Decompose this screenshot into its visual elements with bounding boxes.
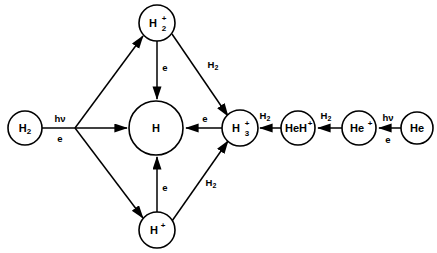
edge-label-h2-heplus-hehplus: H2 [321, 110, 332, 122]
edge-label-h2-h2plus-h3plus: H2 [208, 59, 219, 71]
node-h3-plus-superscript: + [245, 119, 250, 128]
node-heh-plus-label: HeH [285, 122, 307, 134]
node-heh-plus-superscript: + [308, 119, 313, 128]
edge-h2plus-to-h3plus [172, 34, 228, 116]
node-he-plus[interactable]: He + [342, 111, 376, 145]
node-h2-plus-label: H [149, 17, 157, 29]
node-h-plus-superscript: + [161, 221, 166, 230]
node-he[interactable]: He [401, 112, 433, 144]
node-h3-plus-label: H [232, 122, 240, 134]
node-h2-plus-superscript: + [162, 14, 167, 23]
node-he-label: He [410, 122, 424, 134]
node-h3-plus[interactable]: H + 3 [222, 110, 258, 146]
node-h-plus[interactable]: H + [139, 212, 175, 248]
node-h-plus-label: H [150, 224, 158, 236]
edge-label-e-h3plus-h: e [202, 113, 207, 124]
edge-hplus-to-h3plus [172, 141, 228, 221]
node-h2-plus-subscript: 2 [162, 24, 167, 33]
node-he-plus-label: He [350, 122, 364, 134]
reaction-network-svg: H2 H + 2 H H + H + 3 HeH [0, 0, 437, 253]
node-h-label: H [152, 122, 160, 134]
node-h3-plus-circle[interactable] [222, 110, 258, 146]
node-h2-plus[interactable]: H + 2 [139, 5, 175, 41]
node-h[interactable]: H [129, 101, 183, 155]
edge-label-photon-h2: hν [54, 113, 65, 124]
edge-label-h2-hplus-h3plus: H2 [206, 177, 217, 189]
edge-label-h2-hehplus-h3plus: H2 [260, 110, 271, 122]
reaction-diagram: H2 H + 2 H H + H + 3 HeH [0, 0, 437, 253]
node-h2-plus-circle[interactable] [139, 5, 175, 41]
edge-label-e-h2plus-h: e [162, 62, 167, 73]
edge-label-photon-he: hν [382, 112, 393, 123]
node-h2[interactable]: H2 [8, 111, 42, 145]
node-h3-plus-subscript: 3 [245, 129, 250, 138]
node-he-plus-superscript: + [368, 119, 373, 128]
edge-label-e-hplus-h: e [162, 182, 167, 193]
node-heh-plus[interactable]: HeH + [281, 111, 315, 145]
edge-label-electron-he: e [385, 134, 390, 145]
edge-label-electron-h2: e [57, 133, 62, 144]
